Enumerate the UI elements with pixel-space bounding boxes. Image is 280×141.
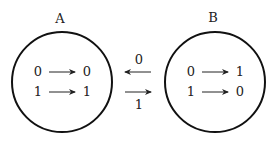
mapping-to: 0 bbox=[236, 84, 244, 99]
set-a-mapping-1: 1 1 bbox=[34, 84, 91, 99]
set-b-mapping-0: 0 1 bbox=[187, 64, 244, 79]
transition-label: 0 bbox=[135, 52, 143, 67]
set-b-circle bbox=[165, 32, 265, 132]
mapping-from: 1 bbox=[34, 84, 42, 99]
mapping-from: 1 bbox=[187, 84, 195, 99]
set-b: B 0 1 1 0 bbox=[165, 10, 265, 132]
mapping-to: 0 bbox=[83, 64, 91, 79]
set-b-label: B bbox=[208, 10, 218, 25]
mapping-from: 0 bbox=[34, 64, 42, 79]
set-a-circle bbox=[12, 32, 112, 132]
transition-b-to-a: 0 bbox=[125, 52, 151, 72]
set-a-label: A bbox=[54, 11, 65, 26]
diagram-canvas: A 0 0 1 1 0 1 B 0 1 1 0 bbox=[0, 0, 280, 141]
set-a: A 0 0 1 1 bbox=[12, 11, 112, 132]
set-a-mapping-0: 0 0 bbox=[34, 64, 91, 79]
set-b-mapping-1: 1 0 bbox=[187, 84, 244, 99]
mapping-from: 0 bbox=[187, 64, 195, 79]
transition-a-to-b: 1 bbox=[125, 92, 151, 112]
mapping-to: 1 bbox=[83, 84, 91, 99]
mapping-to: 1 bbox=[236, 64, 244, 79]
transition-label: 1 bbox=[135, 97, 143, 112]
